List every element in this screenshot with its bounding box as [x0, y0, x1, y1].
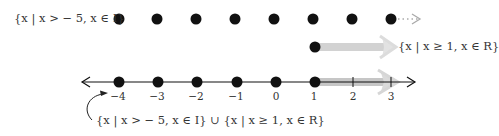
dotted-continuation-arrow-icon [398, 14, 420, 24]
tick-label: −2 [188, 91, 203, 102]
top-set-label: {x | x > − 5, x ∈ I} [14, 13, 125, 25]
tick-label: −1 [228, 91, 243, 102]
middle-set-label: {x | x ≥ 1, x ∈ R} [398, 41, 499, 53]
middle-set-ray [310, 36, 397, 58]
union-label: {x | x > − 5, x ∈ I} ∪ {x | x ≥ 1, x ∈ R… [96, 115, 325, 127]
number-line-axis [82, 70, 415, 94]
tick-label: 1 [311, 91, 318, 102]
tick-label: −4 [110, 91, 125, 102]
tick-label: −3 [149, 91, 164, 102]
tick-label: 0 [273, 91, 280, 102]
tick-label: 3 [388, 91, 395, 102]
top-set-dots [114, 14, 397, 25]
tick-label: 2 [350, 91, 357, 102]
